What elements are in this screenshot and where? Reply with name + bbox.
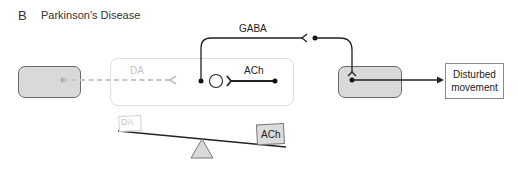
da-label: DA: [130, 65, 144, 76]
seesaw-fulcrum-icon: [191, 139, 213, 158]
gaba-label: GABA: [239, 23, 267, 34]
gaba-arrowhead-icon: [302, 34, 307, 42]
output-arrowhead-icon: [437, 77, 444, 84]
receptor-arrowhead-icon: [348, 72, 356, 76]
balance-da-label: DA: [121, 117, 134, 127]
gaba-descending-line: [315, 38, 352, 72]
ach-label: ACh: [244, 65, 263, 76]
excitatory-plus-icon: [210, 75, 223, 88]
da-arrowhead-icon: [170, 76, 176, 84]
ach-arrowhead-icon: [227, 76, 231, 86]
balance-ach-label: ACh: [261, 129, 280, 140]
ach-origin-dot: [273, 79, 278, 84]
